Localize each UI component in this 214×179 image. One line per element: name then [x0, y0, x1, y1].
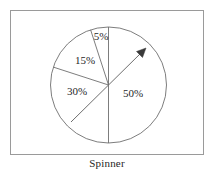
slice-label-30: 30%	[67, 85, 87, 97]
spinner-figure: 50% 30% 15% 5% Spinner	[0, 0, 214, 179]
slice-label-15: 15%	[75, 54, 95, 66]
slice-label-5: 5%	[94, 30, 109, 42]
figure-caption: Spinner	[0, 157, 214, 169]
slice-label-50: 50%	[123, 87, 143, 99]
spinner-wheel: 50% 30% 15% 5%	[0, 0, 214, 179]
